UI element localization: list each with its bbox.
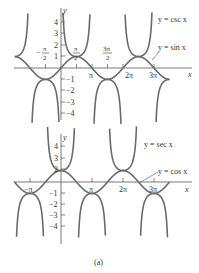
top-x-axis-label: x (187, 70, 192, 79)
top-y-axis-label: y (62, 6, 67, 15)
top-y-tick-1: 1 (54, 52, 58, 61)
top-graph: y x 4 3 2 1 −1 −2 −3 −4 − π 2 π 2 π 3π 2… (14, 6, 192, 124)
frac-num: 3π (103, 45, 111, 53)
bottom-y-tick-neg1: −1 (49, 189, 58, 198)
top-x-label-half-pi: π 2 (73, 45, 80, 62)
top-y-tick-4: 4 (54, 18, 58, 27)
bottom-y-tick-3: 3 (54, 154, 58, 163)
frac-den: 2 (43, 54, 47, 62)
legend-csc: y = csc x (158, 15, 187, 24)
sin-leader-line (152, 52, 159, 60)
bottom-x-label-3pi: 3π (149, 185, 157, 194)
legend-sec: y = sec x (144, 140, 173, 149)
frac-den: 2 (74, 54, 78, 62)
frac-num: π (74, 45, 78, 53)
top-y-tick-neg3: −3 (66, 98, 75, 107)
top-y-tick-2: 2 (54, 41, 58, 50)
frac-num: π (43, 45, 47, 53)
top-y-tick-neg2: −2 (66, 86, 75, 95)
bottom-x-axis-label: x (184, 185, 189, 194)
bottom-y-tick-neg3: −3 (49, 211, 58, 220)
top-x-label-neg-half-pi: − π 2 (36, 45, 49, 62)
bottom-y-ticks (61, 146, 65, 226)
bottom-y-tick-2: 2 (54, 165, 58, 174)
bottom-graph: y x 4 3 2 −1 −2 −3 −4 −π π 2π 3π y = sec… (14, 126, 192, 244)
bottom-x-label-neg-pi: −π (24, 185, 33, 194)
top-x-label-2pi: 2π (125, 71, 133, 80)
top-x-label-3pi: 3π (149, 71, 157, 80)
top-x-label-pi: π (89, 71, 93, 80)
top-x-label-three-half-pi: 3π 2 (103, 45, 112, 62)
neg-sign: − (36, 48, 41, 57)
bottom-y-tick-neg4: −4 (49, 222, 58, 231)
legend-cos: y = cos x (158, 167, 187, 176)
bottom-x-label-pi: π (89, 185, 93, 194)
top-y-tick-3: 3 (54, 29, 58, 38)
legend-sin: y = sin x (158, 43, 186, 52)
frac-den: 2 (106, 54, 110, 62)
bottom-x-label-2pi: 2π (119, 185, 127, 194)
bottom-y-tick-neg2: −2 (49, 200, 58, 209)
figure-caption: (a) (94, 258, 103, 267)
bottom-y-axis-label: y (62, 133, 67, 142)
top-y-tick-neg1: −1 (66, 75, 75, 84)
trig-graphs: y x 4 3 2 1 −1 −2 −3 −4 − π 2 π 2 π 3π 2… (0, 0, 199, 273)
top-y-tick-neg4: −4 (66, 109, 75, 118)
cos-leader-line (139, 172, 158, 183)
bottom-y-tick-4: 4 (54, 142, 58, 151)
